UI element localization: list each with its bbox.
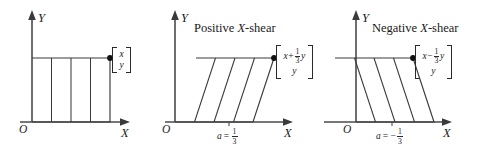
vector-bottom-value: y	[292, 67, 296, 77]
vector-top-base: x	[120, 50, 124, 60]
vector-top-variable: y	[301, 52, 305, 62]
vector-top-variable: y	[440, 52, 444, 62]
shear-sign: −	[390, 132, 396, 142]
bracket-right	[447, 45, 452, 79]
vector-label-negative: x − 1 3 y y	[415, 45, 452, 79]
panel-positive-shear: Y X O Positive X-shear a = 1 3 x +	[157, 0, 319, 160]
parallelogram-rule-2	[374, 58, 395, 122]
shear-denominator: 3	[232, 137, 238, 145]
x-axis-arrowhead	[120, 118, 130, 126]
vector-row-bottom: y	[431, 67, 435, 77]
vector-label-identity: x y	[112, 47, 131, 73]
title-suffix: -shear	[245, 21, 276, 35]
vector-fraction-denominator: 3	[434, 57, 440, 65]
y-axis-arrowhead	[171, 10, 179, 20]
shear-factor-positive: a = 1 3	[217, 128, 238, 146]
panel-positive-canvas: Y X O Positive X-shear	[157, 0, 319, 160]
origin-label: O	[19, 123, 28, 135]
vector-top-fraction: 1 3	[434, 48, 440, 66]
panel-identity: Y X O x y	[0, 0, 160, 160]
origin-label: O	[343, 123, 352, 135]
vector-fraction-denominator: 3	[295, 57, 301, 65]
shear-numerator: 1	[232, 128, 238, 137]
panel-title: Positive X-shear	[194, 21, 276, 35]
parallelogram-rule-2	[214, 58, 235, 122]
y-axis-label: Y	[362, 11, 371, 25]
vector-rows: x + 1 3 y y	[281, 45, 308, 79]
x-axis-label: X	[442, 126, 452, 140]
vector-top-operator: −	[427, 52, 433, 62]
panel-negative-shear: Y X O Negative X-shear a = − 1 3 x −	[316, 0, 484, 160]
x-axis-arrowhead	[283, 118, 293, 126]
vector-top-operator: +	[288, 52, 294, 62]
parallelogram-rule-3	[394, 58, 415, 122]
shear-denominator: 3	[397, 137, 403, 145]
vector-row-bottom: y	[120, 61, 124, 71]
vector-rows: x − 1 3 y y	[420, 45, 447, 79]
shear-equals: =	[222, 132, 231, 142]
vector-top-fraction: 1 3	[295, 48, 301, 66]
x-axis-label: X	[283, 126, 293, 140]
vector-rows: x y	[117, 47, 126, 73]
panel-title: Negative X-shear	[372, 21, 459, 35]
y-axis-arrowhead	[28, 10, 36, 20]
y-axis-arrowhead	[352, 10, 360, 20]
vector-bottom-value: y	[431, 67, 435, 77]
origin-label: O	[162, 123, 171, 135]
y-axis-label: Y	[38, 11, 47, 25]
vector-row-top: x	[120, 50, 124, 60]
parallelogram-rule-1	[195, 58, 216, 122]
panel-identity-canvas: Y X O	[0, 0, 160, 160]
title-suffix: -shear	[428, 21, 459, 35]
parallelogram-rule-3	[234, 58, 255, 122]
title-prefix: Positive	[194, 21, 237, 35]
parallelogram-rule-1	[355, 58, 376, 122]
x-axis-label: X	[120, 126, 130, 140]
vector-row-top: x + 1 3 y	[284, 48, 306, 66]
bracket-right	[126, 47, 131, 73]
bracket-right	[308, 45, 313, 79]
shear-factor-negative: a = − 1 3	[376, 128, 403, 146]
shear-numerator: 1	[397, 128, 403, 137]
shear-equals: =	[381, 132, 390, 142]
vector-label-positive: x + 1 3 y y	[276, 45, 313, 79]
title-prefix: Negative	[372, 21, 420, 35]
shear-transformation-figure: Y X O x y	[0, 0, 484, 160]
y-axis-label: Y	[181, 11, 190, 25]
vector-bottom-value: y	[120, 61, 124, 71]
vector-row-top: x − 1 3 y	[423, 48, 445, 66]
shear-fraction: 1 3	[232, 128, 238, 146]
vector-row-bottom: y	[292, 67, 296, 77]
x-axis-arrowhead	[442, 118, 452, 126]
shear-fraction: 1 3	[397, 128, 403, 146]
